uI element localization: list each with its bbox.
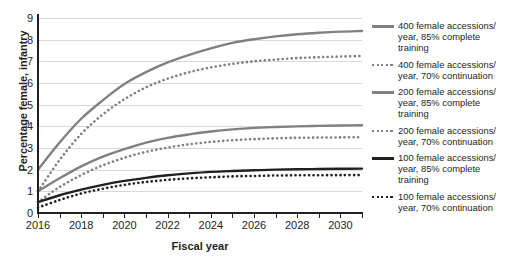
- x-tick-2026: [254, 213, 255, 218]
- legend-line-mark: [372, 91, 394, 94]
- x-tick-label-2020: 2020: [112, 220, 136, 231]
- y-tick-label-6: 6: [27, 78, 33, 89]
- plot-area: 0123456789 20162018202020222024202620282…: [38, 18, 362, 213]
- y-tick-label-4: 4: [27, 121, 33, 132]
- x-tick-2019: [103, 213, 104, 218]
- y-tick-label-2: 2: [27, 164, 33, 175]
- x-tick-2029: [319, 213, 320, 218]
- legend-label-5-line-0: 100 female accessions/: [398, 191, 496, 202]
- legend-label-4: 100 female accessions/year, 85% complete…: [398, 152, 496, 186]
- x-axis-title: Fiscal year: [38, 240, 362, 252]
- legend-label-2-line-2: training: [398, 108, 496, 119]
- legend-label-2-line-1: year, 85% complete: [398, 97, 496, 108]
- legend-entry-0[interactable]: 400 female accessions/year, 85% complete…: [372, 20, 528, 54]
- legend-entry-3[interactable]: 200 female accessions/year, 70% continua…: [372, 125, 528, 147]
- y-tick-label-7: 7: [27, 56, 33, 67]
- legend-swatch-solid-icon: [372, 20, 394, 32]
- x-tick-2027: [276, 213, 277, 218]
- x-tick-label-2022: 2022: [155, 220, 179, 231]
- x-tick-2028: [297, 213, 298, 218]
- legend-label-4-line-0: 100 female accessions/: [398, 152, 496, 163]
- legend-entry-5[interactable]: 100 female accessions/year, 70% continua…: [372, 191, 528, 213]
- x-tick-label-2018: 2018: [69, 220, 93, 231]
- legend-swatch-dotted-icon: [372, 59, 394, 71]
- legend-entry-1[interactable]: 400 female accessions/year, 70% continua…: [372, 59, 528, 81]
- legend-swatch-dotted-icon: [372, 191, 394, 203]
- x-tick-2020: [124, 213, 125, 218]
- y-tick-label-5: 5: [27, 99, 33, 110]
- x-tick-label-2016: 2016: [26, 220, 50, 231]
- legend-label-0-line-1: year, 85% complete: [398, 31, 496, 42]
- legend-line-mark: [372, 64, 394, 67]
- legend-line-mark: [372, 25, 394, 28]
- legend-label-0-line-2: training: [398, 42, 496, 53]
- x-tick-label-2024: 2024: [199, 220, 223, 231]
- x-tick-2025: [232, 213, 233, 218]
- legend-line-mark: [372, 196, 394, 199]
- x-tick-label-2030: 2030: [328, 220, 352, 231]
- x-axis-line: [37, 212, 363, 214]
- y-tick-label-1: 1: [27, 186, 33, 197]
- legend-label-3-line-1: year, 70% continuation: [398, 136, 496, 147]
- legend-label-1-line-1: year, 70% continuation: [398, 70, 496, 81]
- plot-inner: 0123456789 20162018202020222024202620282…: [38, 18, 362, 213]
- legend-swatch-solid-icon: [372, 152, 394, 164]
- chart-figure: Percentage female, infantry 0123456789 2…: [0, 0, 528, 278]
- y-axis-line: [37, 14, 39, 213]
- x-tick-label-2026: 2026: [242, 220, 266, 231]
- legend-label-1-line-0: 400 female accessions/: [398, 59, 496, 70]
- x-tick-2030: [340, 213, 341, 218]
- legend-label-3-line-0: 200 female accessions/: [398, 125, 496, 136]
- legend-entry-2[interactable]: 200 female accessions/year, 85% complete…: [372, 86, 528, 120]
- x-tick-2016: [38, 213, 39, 218]
- legend-label-1: 400 female accessions/year, 70% continua…: [398, 59, 496, 81]
- x-tick-2022: [168, 213, 169, 218]
- series-lines: [38, 18, 362, 213]
- legend-label-3: 200 female accessions/year, 70% continua…: [398, 125, 496, 147]
- legend-label-0: 400 female accessions/year, 85% complete…: [398, 20, 496, 54]
- legend-swatch-dotted-icon: [372, 125, 394, 137]
- series-line-5: [38, 175, 362, 208]
- series-line-0: [38, 31, 362, 170]
- x-tick-2017: [60, 213, 61, 218]
- legend-line-mark: [372, 130, 394, 133]
- legend-label-5-line-1: year, 70% continuation: [398, 202, 496, 213]
- legend-label-5: 100 female accessions/year, 70% continua…: [398, 191, 496, 213]
- y-tick-label-0: 0: [27, 208, 33, 219]
- legend-label-4-line-1: year, 85% complete: [398, 163, 496, 174]
- y-tick-label-8: 8: [27, 34, 33, 45]
- legend-label-4-line-2: training: [398, 174, 496, 185]
- x-tick-2018: [81, 213, 82, 218]
- series-line-2: [38, 125, 362, 191]
- x-tick-2023: [189, 213, 190, 218]
- x-tick-label-2028: 2028: [285, 220, 309, 231]
- y-tick-label-9: 9: [27, 13, 33, 24]
- legend-label-0-line-0: 400 female accessions/: [398, 20, 496, 31]
- legend-swatch-solid-icon: [372, 86, 394, 98]
- x-tick-2021: [146, 213, 147, 218]
- legend: 400 female accessions/year, 85% complete…: [372, 20, 528, 218]
- x-tick-2031: [362, 213, 363, 218]
- legend-line-mark: [372, 157, 394, 160]
- series-line-1: [38, 56, 362, 191]
- legend-label-2: 200 female accessions/year, 85% complete…: [398, 86, 496, 120]
- legend-entry-4[interactable]: 100 female accessions/year, 85% complete…: [372, 152, 528, 186]
- x-tick-2024: [211, 213, 212, 218]
- legend-label-2-line-0: 200 female accessions/: [398, 86, 496, 97]
- y-tick-label-3: 3: [27, 143, 33, 154]
- series-line-4: [38, 169, 362, 203]
